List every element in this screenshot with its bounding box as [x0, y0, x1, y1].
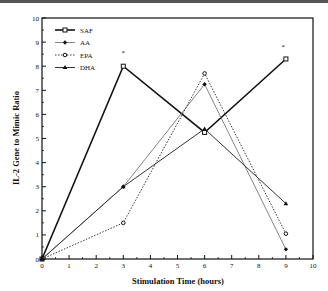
y-tick-label: 5	[36, 135, 40, 143]
data-point	[63, 40, 67, 44]
x-tick-label: 6	[203, 262, 207, 270]
data-point	[63, 53, 67, 57]
x-tick-label: 8	[257, 262, 261, 270]
legend-label: DHA	[80, 64, 95, 72]
x-tick-label: 10	[310, 262, 318, 270]
y-tick-label: 1	[36, 231, 40, 239]
x-tick-label: 2	[94, 262, 98, 270]
y-axis-label: IL-2 Gene to Mimic Ratio	[11, 91, 21, 185]
y-tick-label: 3	[36, 183, 40, 191]
legend-item-epa: EPA	[55, 52, 93, 60]
data-point	[203, 130, 207, 134]
data-point	[202, 126, 207, 130]
series-dha	[40, 126, 289, 260]
y-tick-label: 4	[36, 159, 40, 167]
legend-item-aa: AA	[55, 39, 90, 47]
x-tick-label: 9	[284, 262, 288, 270]
y-tick-label: 0	[36, 256, 40, 264]
legend-label: AA	[80, 39, 90, 47]
x-tick-label: 1	[67, 262, 71, 270]
data-point	[284, 232, 288, 236]
legend-item-saf: SAF	[55, 27, 93, 35]
x-tick-label: 4	[149, 262, 153, 270]
significance-asterisk: *	[281, 43, 285, 51]
legend: SAFAAEPADHA	[55, 27, 95, 73]
legend-label: EPA	[80, 52, 93, 60]
series-line-dha	[42, 129, 286, 259]
annotations: **	[122, 43, 286, 57]
y-tick-label: 10	[32, 15, 40, 23]
x-axis-label: Stimulation Time (hours)	[132, 276, 224, 286]
x-tick-label: 0	[40, 262, 44, 270]
legend-label: SAF	[80, 27, 93, 35]
legend-item-dha: DHA	[55, 64, 95, 72]
y-tick-label: 6	[36, 111, 40, 119]
y-tick-label: 8	[36, 63, 40, 71]
y-tick-label: 9	[36, 39, 40, 47]
significance-asterisk: *	[122, 49, 126, 57]
series-group	[40, 57, 289, 261]
y-tick-label: 2	[36, 207, 40, 215]
series-saf	[40, 57, 288, 261]
x-tick-label: 5	[176, 262, 180, 270]
data-point	[203, 72, 207, 76]
data-point	[63, 28, 67, 32]
data-point	[284, 247, 288, 251]
line-chart: 012345678910012345678910 SAFAAEPADHA ** …	[0, 0, 328, 291]
series-line-saf	[42, 59, 286, 259]
series-line-epa	[42, 73, 286, 259]
ticks: 012345678910012345678910	[32, 15, 317, 271]
data-point	[122, 221, 126, 225]
data-point	[284, 57, 288, 61]
x-tick-label: 3	[122, 262, 126, 270]
y-tick-label: 7	[36, 87, 40, 95]
data-point	[121, 64, 125, 68]
x-tick-label: 7	[230, 262, 234, 270]
